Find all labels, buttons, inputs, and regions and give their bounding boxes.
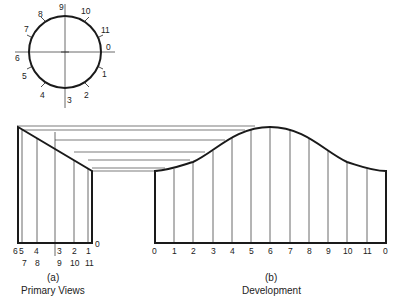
primary-bottom-label-7: 7 <box>22 258 27 268</box>
station-label-8: 8 <box>307 246 312 256</box>
division-label-1: 1 <box>102 69 107 79</box>
development-caption: Development <box>242 285 301 296</box>
station-label-7: 7 <box>288 246 293 256</box>
primary-view: 6 5 4 3 2 1 7 8 9 10 11 0 (a) Primary Vi… <box>13 127 100 296</box>
primary-top-label-4: 4 <box>34 246 39 256</box>
primary-top-label-6: 6 <box>13 246 18 256</box>
division-label-4: 4 <box>40 90 45 100</box>
station-label-5: 5 <box>249 246 254 256</box>
development-outline <box>155 127 386 243</box>
division-label-3: 3 <box>67 95 72 105</box>
station-label-10: 10 <box>343 246 353 256</box>
development-letter: (b) <box>265 272 277 283</box>
division-label-10: 10 <box>81 6 91 16</box>
division-label-2: 2 <box>84 90 89 100</box>
primary-bottom-label-9: 9 <box>57 258 62 268</box>
division-label-5: 5 <box>22 71 27 81</box>
primary-view-caption: Primary Views <box>21 285 85 296</box>
station-label-2: 2 <box>191 246 196 256</box>
division-label-11: 11 <box>101 25 110 35</box>
station-label-3: 3 <box>211 246 216 256</box>
division-label-9: 9 <box>59 2 64 12</box>
station-label-9: 9 <box>326 246 331 256</box>
primary-top-label-1: 1 <box>86 246 91 256</box>
primary-view-letter: (a) <box>47 272 59 283</box>
primary-bottom-label-11: 11 <box>85 258 94 268</box>
division-label-7: 7 <box>24 24 29 34</box>
station-label-6: 6 <box>268 246 273 256</box>
division-label-0: 0 <box>106 42 111 52</box>
station-label-0: 0 <box>152 246 157 256</box>
primary-top-label-5: 5 <box>19 246 24 256</box>
development-view: 0 1 2 3 4 5 6 7 8 9 10 11 0 (b) Developm… <box>152 127 388 296</box>
primary-bottom-label-10: 10 <box>70 258 80 268</box>
plan-view-circle: 0 1 2 3 4 5 6 7 8 9 10 11 <box>15 2 115 108</box>
development-element-lines <box>174 127 367 243</box>
division-label-8: 8 <box>38 9 43 19</box>
station-label-0-end: 0 <box>383 246 388 256</box>
cylinder-development-diagram: 0 1 2 3 4 5 6 7 8 9 10 11 6 5 4 3 <box>0 0 401 307</box>
primary-top-label-3: 3 <box>57 246 62 256</box>
primary-top-label-2: 2 <box>72 246 77 256</box>
station-label-4: 4 <box>230 246 235 256</box>
primary-bottom-label-8: 8 <box>35 258 40 268</box>
station-label-11: 11 <box>363 246 372 256</box>
primary-end-label-0: 0 <box>95 239 100 249</box>
station-label-1: 1 <box>172 246 177 256</box>
division-label-6: 6 <box>15 53 20 63</box>
